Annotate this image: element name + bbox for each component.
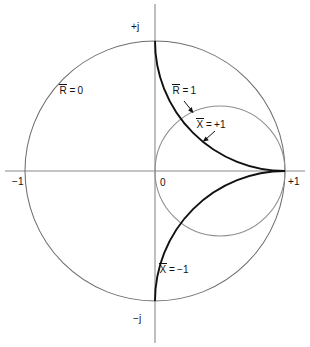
curve-label-r1: R=1: [172, 85, 196, 96]
equals-sign: =: [167, 264, 177, 275]
curve-label-x-plus-1: X=+1: [196, 119, 226, 130]
equals-sign: =: [180, 85, 190, 96]
x-symbol-overbar: X: [196, 119, 204, 130]
curve-label-x-minus-1: X=−1: [159, 264, 189, 275]
axis-label-origin: 0: [160, 177, 166, 188]
r1-leader-arrow: [184, 101, 194, 113]
axis-label-plus-one: +1: [288, 176, 300, 187]
xp1-value: +1: [214, 119, 226, 130]
xm1-value: −1: [177, 264, 189, 275]
chart-canvas: [0, 0, 310, 347]
x-symbol-overbar: X: [159, 264, 167, 275]
r-symbol-overbar: R: [59, 85, 67, 96]
r0-value: 0: [77, 85, 83, 96]
equals-sign: =: [204, 119, 214, 130]
axis-label-minus-one: −1: [12, 176, 24, 187]
xp1-leader-arrow: [203, 131, 215, 142]
r-symbol-overbar: R: [172, 85, 180, 96]
curve-label-r0: R=0: [59, 85, 83, 96]
axis-label-plus-j: +j: [131, 21, 139, 32]
r1-value: 1: [190, 85, 196, 96]
smith-chart-figure: +j −j −1 0 +1 R=0 R=1 X=+1 X=−1: [0, 0, 310, 347]
axis-label-minus-j: −j: [133, 313, 141, 324]
equals-sign: =: [67, 85, 77, 96]
